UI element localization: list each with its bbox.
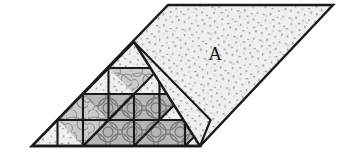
geometry-figure: A <box>0 0 352 168</box>
region-a-label: A <box>208 43 222 64</box>
figure-root: A <box>0 0 352 168</box>
